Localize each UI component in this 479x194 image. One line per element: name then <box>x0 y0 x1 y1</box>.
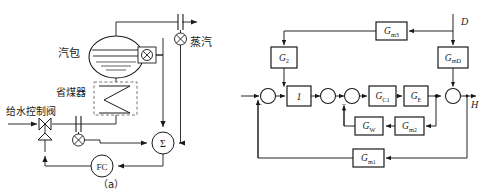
wire-gm3-to-g2 <box>284 31 376 45</box>
block-one-label: 1 <box>297 91 302 102</box>
summing-junction-3 <box>345 89 360 104</box>
block-gm1-subscript: m1 <box>368 158 376 165</box>
block-gm3-subscript: m3 <box>391 31 399 38</box>
block-g2-subscript: 2 <box>286 57 289 64</box>
summing-junction-1 <box>261 89 276 104</box>
wire-gw-to-sum3 <box>344 110 355 126</box>
wire-gm1-to-sum1 <box>258 106 353 158</box>
sign-minus-sum1: − <box>258 100 263 109</box>
panel-a-svg: Σ FC <box>0 0 240 194</box>
summing-element-label: Σ <box>160 138 166 149</box>
label-feedwater-control-valve: 给水控制阀 <box>6 103 56 118</box>
label-economizer: 省煤器 <box>56 84 86 99</box>
signal-node-output <box>466 95 469 98</box>
block-gc1-subscript: C1 <box>382 96 389 103</box>
label-output-h: H <box>470 99 479 110</box>
summing-junction-4 <box>446 89 461 104</box>
label-steam: 蒸汽 <box>190 33 212 49</box>
feedwater-control-valve-icon <box>38 118 52 152</box>
steam-drum-vessel <box>89 36 143 78</box>
block-gm2-subscript: m2 <box>409 126 417 133</box>
figure-root: Σ FC 汽包 省煤器 给水控制阀 蒸汽 （a） Gm3G2GmD1GC1GEG… <box>0 0 479 194</box>
sign-minus-sum3: − <box>342 100 347 109</box>
economizer-boundary <box>94 82 137 115</box>
flow-controller-label: FC <box>96 162 107 172</box>
block-gmd-subscript: mD <box>452 57 462 64</box>
label-disturbance-d: D <box>460 16 469 27</box>
steam-flow-transmitter-icon <box>175 30 187 45</box>
label-steam-drum: 汽包 <box>58 44 80 60</box>
level-transmitter-icon <box>138 47 156 63</box>
panel-b-block-diagram-svg: Gm3G2GmD1GC1GEGm2GWGm1DH−− <box>240 0 479 194</box>
summing-junction-2 <box>321 89 336 104</box>
feedwater-flow-transmitter-icon <box>73 132 85 146</box>
signal-node-ge-out <box>435 95 438 98</box>
panel-b-block-diagram: Gm3G2GmD1GC1GEGm2GWGm1DH−− （b） <box>240 0 479 194</box>
economizer-coil-icon <box>99 86 130 113</box>
panel-a-process-diagram: Σ FC 汽包 省煤器 给水控制阀 蒸汽 （a） <box>0 0 240 194</box>
panel-a-caption: （a） <box>98 176 124 191</box>
block-gw-subscript: W <box>369 126 375 133</box>
block-ge-subscript: E <box>418 96 422 103</box>
